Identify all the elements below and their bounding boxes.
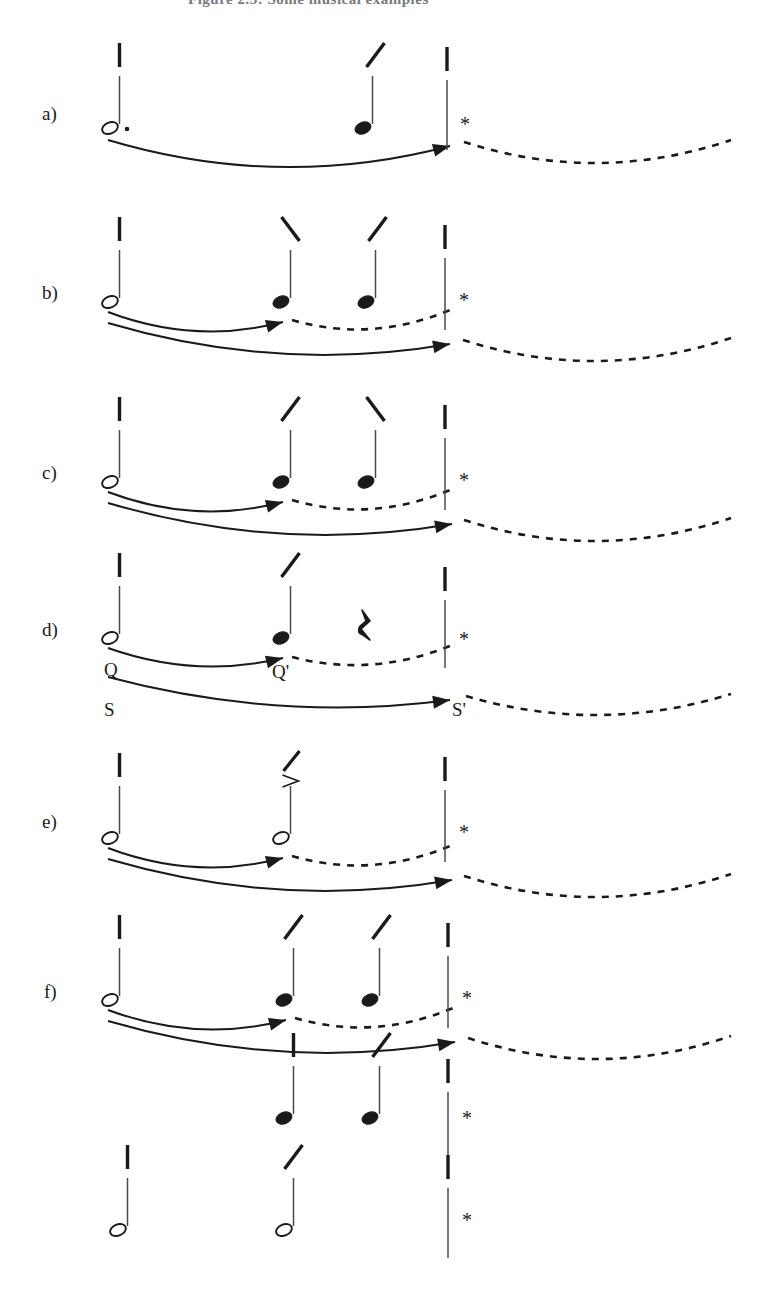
- row-d-arc-dashed-tail: [466, 694, 731, 715]
- row-e-arc-solid-outer-arrowhead-icon: [434, 876, 452, 889]
- row-h-asterisk-marker: *: [462, 1210, 472, 1230]
- row-c-note-2-head-filled-icon: [271, 474, 290, 491]
- row-e-note-1-head-hollow-icon: [100, 830, 119, 847]
- row-c-asterisk-marker: *: [459, 470, 469, 490]
- row-d-arc-label-S: S: [104, 700, 115, 719]
- row-f-note-1-head-hollow-icon: [100, 992, 119, 1009]
- row-h-note-2-tick-slash-up-icon: [285, 1145, 303, 1169]
- row-e-arc-solid-inner-arrowhead-icon: [265, 856, 283, 869]
- row-c-note-3-tick-slash-down-icon: [367, 397, 385, 421]
- row-f-arc-solid-outer-arrowhead-icon: [437, 1038, 455, 1051]
- notation-canvas: [0, 0, 774, 1304]
- row-f-note-2-head-filled-icon: [274, 992, 293, 1009]
- row-d-note-2-head-filled-icon: [271, 630, 290, 647]
- row-c-arc-solid-outer: [108, 503, 452, 535]
- row-a-arc-solid-outer: [108, 140, 450, 167]
- row-d-arc-label-S-prime: S': [452, 700, 466, 719]
- row-f-note-3-head-filled-icon: [360, 992, 379, 1009]
- row-a-asterisk-marker: *: [460, 114, 470, 134]
- row-e-arc-solid-inner: [108, 848, 283, 867]
- row-d-note-1-head-hollow-icon: [100, 630, 119, 647]
- row-f-arc-solid-inner-arrowhead-icon: [268, 1018, 286, 1031]
- row-b-note-3-tick-slash-up-icon: [369, 217, 387, 241]
- row-g-note-1-head-filled-icon: [274, 1110, 293, 1127]
- row-b-arc-solid-inner-arrowhead-icon: [265, 320, 283, 333]
- row-label-f: f): [44, 982, 57, 1001]
- row-d-asterisk-marker: *: [459, 629, 469, 649]
- row-e-note-2-head-hollow-icon: [271, 830, 290, 847]
- row-d-arc-dashed-inner: [292, 646, 450, 665]
- row-b-arc-solid-outer: [108, 323, 450, 355]
- row-d-arc-solid-outer-arrowhead-icon: [432, 696, 450, 709]
- row-a-note-1-head-hollow-icon: [100, 120, 119, 137]
- row-g-note-2-head-filled-icon: [360, 1110, 379, 1127]
- row-label-e: e): [42, 812, 57, 831]
- row-e-arc-solid-outer: [108, 859, 452, 891]
- row-c-note-2-tick-slash-up-icon: [282, 397, 300, 421]
- row-h-note-1-head-hollow-icon: [108, 1222, 127, 1239]
- row-e-note-2-tick-slash-up-icon: [284, 751, 300, 771]
- row-d-arc-solid-inner: [108, 648, 283, 666]
- row-c-arc-dashed-tail: [464, 518, 731, 541]
- row-h-note-2-head-hollow-icon: [274, 1222, 293, 1239]
- row-g-asterisk-marker: *: [462, 1108, 472, 1128]
- row-f-arc-dashed-inner: [295, 1008, 453, 1027]
- row-d-quarter-rest-icon: [359, 610, 370, 640]
- row-e-arc-dashed-tail: [464, 874, 731, 897]
- row-d-note-2-tick-slash-up-icon: [282, 553, 300, 577]
- row-f-arc-solid-outer: [108, 1021, 455, 1053]
- row-a-arc-dashed-tail: [464, 140, 731, 163]
- row-c-note-3-head-filled-icon: [356, 474, 375, 491]
- row-a-note-2-tick-slash-up-icon: [367, 43, 385, 67]
- row-b-arc-dashed-tail: [463, 338, 731, 361]
- row-a-note-1-augmentation-dot-icon: [125, 127, 130, 132]
- row-label-d: d): [42, 620, 58, 639]
- row-a-note-2-head-filled-icon: [353, 120, 372, 137]
- row-c-arc-dashed-inner: [292, 490, 450, 509]
- row-f-asterisk-marker: *: [462, 988, 472, 1008]
- row-f-arc-solid-inner: [108, 1010, 286, 1029]
- row-e-asterisk-marker: *: [459, 822, 469, 842]
- row-c-note-1-head-hollow-icon: [100, 474, 119, 491]
- row-b-note-3-head-filled-icon: [356, 294, 375, 311]
- row-b-arc-dashed-inner: [292, 310, 450, 329]
- row-e-arc-dashed-inner: [292, 846, 450, 865]
- figure-root: Figure 2.3: Some musical examples *a)*b)…: [0, 0, 774, 1304]
- row-label-b: b): [42, 283, 58, 302]
- row-e-note-2-accent-gt-icon: [283, 775, 299, 787]
- row-d-arc-label-Q-prime: Q': [272, 662, 289, 681]
- row-label-a: a): [42, 104, 57, 123]
- row-b-note-2-head-filled-icon: [271, 294, 290, 311]
- row-b-arc-solid-outer-arrowhead-icon: [432, 340, 450, 353]
- row-c-arc-solid-inner-arrowhead-icon: [265, 500, 283, 513]
- row-b-asterisk-marker: *: [459, 290, 469, 310]
- row-b-note-2-tick-slash-down-icon: [282, 217, 300, 241]
- row-f-note-3-tick-slash-up-icon: [373, 915, 391, 939]
- row-d-arc-label-Q: Q: [104, 660, 118, 679]
- row-label-c: c): [42, 463, 57, 482]
- row-c-arc-solid-inner: [108, 492, 283, 511]
- row-f-note-2-tick-slash-up-icon: [285, 915, 303, 939]
- row-g-note-2-tick-slash-up-icon: [373, 1033, 391, 1057]
- row-f-arc-dashed-tail: [468, 1036, 731, 1059]
- row-b-note-1-head-hollow-icon: [100, 294, 119, 311]
- row-b-arc-solid-inner: [108, 312, 283, 331]
- row-c-arc-solid-outer-arrowhead-icon: [434, 520, 452, 533]
